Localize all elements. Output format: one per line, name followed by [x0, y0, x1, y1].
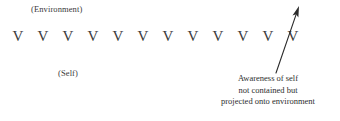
- caption-line: Awareness of self: [196, 73, 340, 85]
- v-glyph: V: [11, 27, 25, 45]
- v-glyph: V: [86, 27, 100, 45]
- v-glyph: V: [261, 27, 275, 45]
- v-glyph: V: [111, 27, 125, 45]
- caption-block: Awareness of selfnot contained butprojec…: [196, 73, 340, 108]
- v-glyph: V: [61, 27, 75, 45]
- v-glyph: V: [186, 27, 200, 45]
- self-environment-diagram: (Environment) (Self) VVVVVVVVVVVV Awaren…: [0, 0, 340, 121]
- v-glyph-row: VVVVVVVVVVVV: [0, 27, 340, 49]
- v-glyph: V: [161, 27, 175, 45]
- v-glyph: V: [136, 27, 150, 45]
- v-glyph: V: [286, 27, 300, 45]
- environment-label: (Environment): [31, 4, 82, 15]
- v-glyph: V: [36, 27, 50, 45]
- v-glyph: V: [236, 27, 250, 45]
- caption-line: not contained but: [196, 85, 340, 97]
- v-glyph: V: [211, 27, 225, 45]
- caption-line: projected onto environment: [196, 96, 340, 108]
- self-label: (Self): [58, 68, 78, 79]
